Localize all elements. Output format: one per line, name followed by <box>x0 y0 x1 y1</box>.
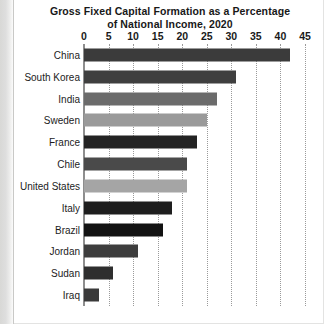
bar-sweden <box>84 114 207 127</box>
bar-row: China <box>14 44 324 66</box>
bar-sudan <box>84 267 113 280</box>
bar-iraq <box>84 289 99 302</box>
category-label-brazil: Brazil <box>55 224 80 235</box>
bar-united-states <box>84 179 187 192</box>
x-tick-label-20: 20 <box>176 30 188 42</box>
category-label-jordan: Jordan <box>49 246 80 257</box>
category-label-chile: Chile <box>57 159 80 170</box>
bar-row: United States <box>14 175 324 197</box>
x-tick-label-35: 35 <box>250 30 262 42</box>
category-label-france: France <box>49 137 80 148</box>
x-tick-label-30: 30 <box>225 30 237 42</box>
bar-row: Brazil <box>14 219 324 241</box>
bar-india <box>84 92 217 105</box>
category-label-south-korea: South Korea <box>24 71 80 82</box>
bar-row: Chile <box>14 153 324 175</box>
chart-frame: Gross Fixed Capital Formation as a Perce… <box>14 0 324 324</box>
bar-italy <box>84 201 172 214</box>
bar-south-korea <box>84 70 236 83</box>
bar-row: South Korea <box>14 66 324 88</box>
category-label-china: China <box>54 49 80 60</box>
bar-brazil <box>84 223 163 236</box>
category-label-sudan: Sudan <box>51 268 80 279</box>
x-tick-label-0: 0 <box>81 30 87 42</box>
category-label-india: India <box>58 93 80 104</box>
bar-chile <box>84 158 187 171</box>
x-tick-label-45: 45 <box>299 30 311 42</box>
bar-row: France <box>14 131 324 153</box>
bar-china <box>84 48 290 61</box>
bar-row: Jordan <box>14 241 324 263</box>
x-tick-label-25: 25 <box>201 30 213 42</box>
bar-france <box>84 136 197 149</box>
x-axis-tick-labels: 051015202530354045 <box>14 30 324 44</box>
category-label-italy: Italy <box>62 202 80 213</box>
bar-rows: ChinaSouth KoreaIndiaSwedenFranceChileUn… <box>14 44 324 306</box>
category-label-iraq: Iraq <box>63 290 80 301</box>
x-tick-label-15: 15 <box>152 30 164 42</box>
x-tick-label-5: 5 <box>106 30 112 42</box>
bar-row: Italy <box>14 197 324 219</box>
bar-row: Iraq <box>14 284 324 306</box>
bar-row: Sweden <box>14 110 324 132</box>
bar-jordan <box>84 245 138 258</box>
plot-area: 051015202530354045 ChinaSouth KoreaIndia… <box>14 0 324 324</box>
x-tick-label-40: 40 <box>275 30 287 42</box>
category-label-sweden: Sweden <box>44 115 80 126</box>
bar-row: Sudan <box>14 262 324 284</box>
category-label-united-states: United States <box>20 180 80 191</box>
x-tick-label-10: 10 <box>127 30 139 42</box>
chart-figure: Gross Fixed Capital Formation as a Perce… <box>0 0 324 324</box>
bar-row: India <box>14 88 324 110</box>
page-gutter-artifact <box>0 0 13 324</box>
